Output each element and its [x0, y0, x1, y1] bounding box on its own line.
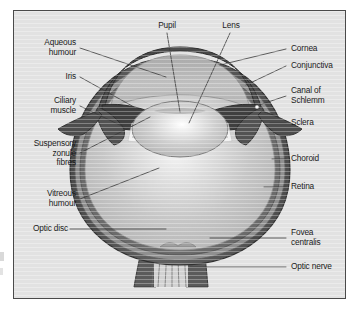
canal-of-schlemm-marker [255, 105, 259, 109]
label-fovea-centralis: Fovea centralis [291, 228, 346, 247]
diagram-frame: Pupil Lens Aqueous humour Iris Ciliary m… [13, 10, 346, 299]
figure-page: Pupil Lens Aqueous humour Iris Ciliary m… [0, 0, 361, 311]
label-pupil: Pupil [146, 21, 188, 31]
label-optic-disc: Optic disc [14, 224, 68, 234]
label-canal-of-schlemm: Canal of Schlemm [291, 86, 346, 105]
label-sclera: Sclera [291, 118, 346, 128]
label-optic-nerve: Optic nerve [291, 262, 346, 272]
label-ciliary-muscle: Ciliary muscle [14, 96, 76, 115]
label-iris: Iris [14, 72, 76, 82]
leader-conjunctiva [246, 66, 286, 85]
label-choroid: Choroid [291, 154, 346, 164]
label-retina: Retina [291, 182, 346, 192]
label-lens: Lens [212, 21, 250, 31]
leader-cornea [220, 49, 286, 65]
label-cornea: Cornea [291, 44, 346, 54]
label-suspensory-zonule-fibres: Suspensory zonule fibres [13, 139, 76, 168]
scan-artifact-left-lower [0, 268, 3, 275]
label-vitreous-humour: Vitreous humour [14, 189, 76, 208]
scan-artifact-left-upper [0, 252, 4, 261]
label-conjunctiva: Conjunctiva [291, 61, 346, 71]
label-aqueous-humour: Aqueous humour [14, 38, 76, 57]
